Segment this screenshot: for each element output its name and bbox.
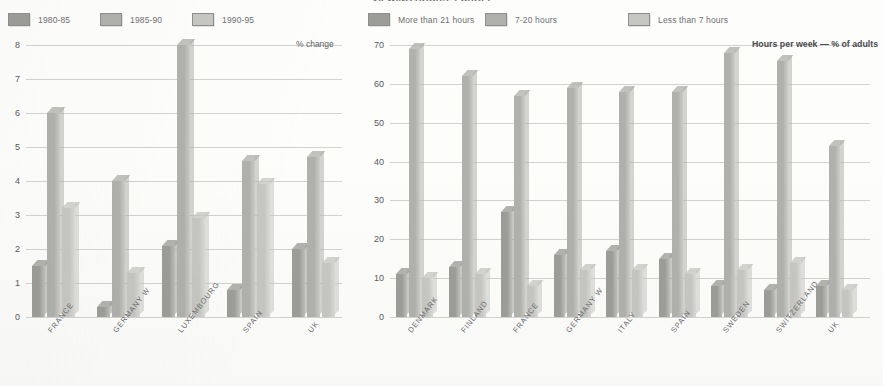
bar (554, 255, 565, 317)
bar-face (177, 45, 190, 317)
bar-side (335, 256, 339, 314)
bar (816, 286, 827, 317)
chart-panel-left: 1980-851985-901990-95 012345678FRANCEGER… (0, 0, 360, 386)
y-axis-tick-label: 0 (4, 312, 20, 322)
bar-group (554, 45, 594, 317)
bar-face (97, 307, 110, 317)
y-axis-tick-label: 10 (368, 273, 384, 283)
bar-face (659, 259, 670, 317)
bar-group (659, 45, 699, 317)
bar (842, 290, 853, 317)
bar-side (643, 264, 647, 314)
bar-face (672, 92, 683, 317)
legend-label: 1985-90 (130, 15, 162, 25)
legend-label: Less than 7 hours (658, 15, 728, 25)
y-axis-tick-label: 30 (368, 195, 384, 205)
bar (112, 181, 125, 317)
bar-face (619, 92, 630, 317)
bar (659, 259, 670, 317)
bar-group (162, 45, 208, 317)
legend-item-left-2[interactable]: 1990-95 (192, 13, 254, 26)
legend-item-right-0[interactable]: More than 21 hours (368, 13, 474, 26)
bar (292, 249, 305, 317)
legend-label: 1990-95 (222, 15, 254, 25)
bar-face (227, 290, 240, 317)
bar (711, 286, 722, 317)
bar (322, 263, 335, 317)
bar-group (764, 45, 804, 317)
legend-item-right-1[interactable]: 7-20 hours (485, 13, 557, 26)
legend-item-left-0[interactable]: 1980-85 (8, 13, 70, 26)
bar (672, 92, 683, 317)
bar-group (97, 45, 143, 317)
bar (227, 290, 240, 317)
bar-side (420, 43, 424, 314)
plot-area-left: 012345678FRANCEGERMANY WLUXEMBOURGSPAINU… (26, 45, 342, 317)
bar-group (501, 45, 541, 317)
bar-group (32, 45, 78, 317)
bar-side (270, 178, 274, 314)
bar-face (764, 290, 775, 317)
bar (177, 45, 190, 317)
bar (449, 267, 460, 318)
legend-item-right-2[interactable]: Less than 7 hours (628, 13, 728, 26)
bar-face (816, 286, 827, 317)
bar-side (525, 89, 529, 314)
bar-face (711, 286, 722, 317)
bar (242, 161, 255, 317)
chart-panel-right: More than 21 hours7-20 hoursLess than 7 … (360, 0, 883, 386)
bar-face (632, 270, 643, 317)
bar (396, 274, 407, 317)
y-axis-tick-label: 3 (4, 210, 20, 220)
bar-group (606, 45, 646, 317)
axis-caption-left: % change (296, 39, 334, 49)
bar-face (842, 290, 853, 317)
bar (514, 96, 525, 317)
x-axis-category-label: UK (826, 319, 841, 334)
bar-face (829, 146, 840, 317)
bar (724, 53, 735, 317)
bar-face (606, 251, 617, 317)
bar-face (567, 88, 578, 317)
y-axis-tick-label: 20 (368, 234, 384, 244)
bar-face (449, 267, 460, 318)
bar-face (514, 96, 525, 317)
bar-face (396, 274, 407, 317)
bar-face (257, 184, 270, 317)
bar (632, 270, 643, 317)
legend-item-left-1[interactable]: 1985-90 (100, 13, 162, 26)
y-axis-tick-label: 0 (368, 312, 384, 322)
bar-face (32, 266, 45, 317)
plot-area-right: 010203040506070DENMARKFINLANDFRANCEGERMA… (390, 45, 870, 317)
legend-swatch-icon (100, 13, 122, 26)
legend-label: 7-20 hours (515, 15, 557, 25)
bar (567, 88, 578, 317)
bar-face (501, 212, 512, 317)
bar-face (409, 49, 420, 317)
y-axis-tick-label: 4 (4, 176, 20, 186)
y-axis-tick-label: 70 (368, 40, 384, 50)
bar-group (816, 45, 856, 317)
bar-group (227, 45, 273, 317)
axis-caption-right: Hours per week — % of adults (752, 39, 878, 49)
y-axis-tick-label: 6 (4, 108, 20, 118)
bar-face (242, 161, 255, 317)
legend-swatch-icon (368, 13, 390, 26)
bar-face (724, 53, 735, 317)
legend-swatch-icon (8, 13, 30, 26)
bar (829, 146, 840, 317)
bar-face (777, 61, 788, 317)
bar (97, 307, 110, 317)
legend-swatch-icon (628, 13, 650, 26)
legend-label: 1980-85 (38, 15, 70, 25)
bar-group (449, 45, 489, 317)
y-axis-tick-label: 50 (368, 118, 384, 128)
bar (162, 246, 175, 317)
bar (307, 157, 320, 317)
bar (409, 49, 420, 317)
bar (777, 61, 788, 317)
y-axis-tick-label: 8 (4, 40, 20, 50)
y-axis-tick-label: 1 (4, 278, 20, 288)
bar-group (711, 45, 751, 317)
bar-face (322, 263, 335, 317)
